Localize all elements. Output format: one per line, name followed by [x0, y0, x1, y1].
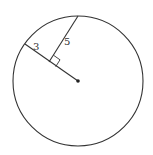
center-point	[76, 79, 80, 83]
label-segment-5: 5	[64, 36, 70, 47]
geometry-diagram: 3 5	[0, 0, 153, 155]
label-segment-3: 3	[33, 41, 39, 52]
